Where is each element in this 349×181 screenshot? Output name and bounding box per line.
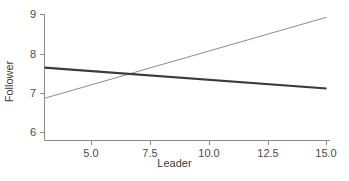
y-tick-label-6: 6	[22, 127, 36, 138]
y-tick-label-9: 9	[22, 9, 36, 20]
y-axis-title: Follower	[4, 52, 15, 112]
y-tick-marks	[40, 15, 45, 133]
y-tick-label-8: 8	[22, 49, 36, 60]
chart-container: 9 8 7 6 5.0 7.5 10.0 12.5 15.0 Leader Fo…	[0, 0, 349, 181]
chart-plot-area	[0, 0, 349, 181]
x-axis-title: Leader	[0, 158, 349, 169]
series-declining-line	[45, 68, 327, 89]
y-tick-label-7: 7	[22, 88, 36, 99]
x-tick-marks	[92, 141, 327, 146]
